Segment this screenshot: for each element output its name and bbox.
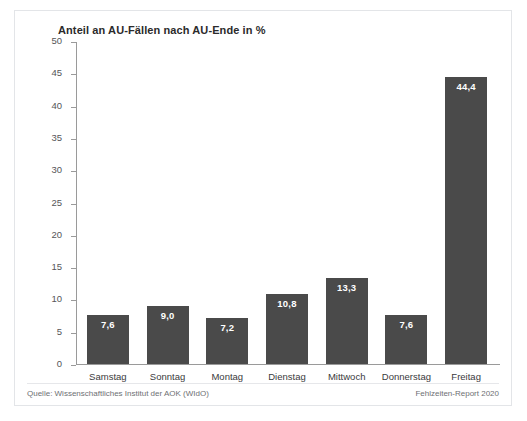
y-axis-tick-label: 5	[57, 326, 62, 337]
y-axis-tick: 50	[71, 42, 76, 43]
report-note: Fehlzeiten-Report 2020	[415, 389, 499, 398]
y-axis-tick-label: 40	[51, 100, 62, 111]
bar-value-label: 7,6	[385, 319, 427, 330]
footer-divider	[27, 383, 499, 384]
x-axis-line	[76, 364, 500, 365]
chart-title: Anteil an AU-Fällen nach AU-Ende in %	[58, 24, 266, 36]
bar[interactable]: 7,6	[87, 315, 129, 364]
y-axis-tick: 15	[71, 268, 76, 269]
y-axis-tick-label: 0	[57, 358, 62, 369]
y-axis-tick-label: 25	[51, 197, 62, 208]
y-axis-tick-label: 35	[51, 132, 62, 143]
bar-value-label: 9,0	[147, 310, 189, 321]
y-axis-tick: 40	[71, 107, 76, 108]
y-axis-tick: 5	[71, 333, 76, 334]
y-axis-tick: 10	[71, 300, 76, 301]
y-axis-tick: 35	[71, 139, 76, 140]
bar-value-label: 7,6	[87, 319, 129, 330]
y-axis-line	[76, 42, 77, 365]
bar[interactable]: 7,6	[385, 315, 427, 364]
y-axis-tick: 0	[71, 365, 76, 366]
bar[interactable]: 7,2	[206, 318, 248, 365]
bar[interactable]: 44,4	[445, 77, 487, 364]
y-axis-tick: 25	[71, 204, 76, 205]
source-note: Quelle: Wissenschaftliches Institut der …	[27, 389, 209, 398]
bar[interactable]: 13,3	[326, 278, 368, 364]
y-axis-tick-label: 50	[51, 35, 62, 46]
x-axis-label: Freitag	[426, 371, 506, 382]
bar-value-label: 13,3	[326, 282, 368, 293]
y-axis-tick-label: 15	[51, 261, 62, 272]
y-axis-tick: 30	[71, 171, 76, 172]
bar[interactable]: 10,8	[266, 294, 308, 364]
bar[interactable]: 9,0	[147, 306, 189, 364]
bar-value-label: 10,8	[266, 298, 308, 309]
bar-value-label: 7,2	[206, 322, 248, 333]
y-axis-tick-label: 10	[51, 293, 62, 304]
y-axis-tick-label: 20	[51, 229, 62, 240]
chart-figure: Anteil an AU-Fällen nach AU-Ende in % 50…	[14, 10, 512, 406]
bar-value-label: 44,4	[445, 81, 487, 92]
y-axis-tick: 20	[71, 236, 76, 237]
y-axis-tick-label: 45	[51, 67, 62, 78]
y-axis-tick: 45	[71, 74, 76, 75]
y-axis-tick-label: 30	[51, 164, 62, 175]
plot-area: 50454035302520151050 7,69,07,210,813,37,…	[76, 42, 500, 365]
